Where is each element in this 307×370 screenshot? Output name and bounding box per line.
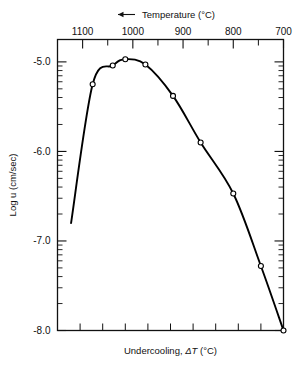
top-axis-tick-label: 900 [175,26,192,37]
left-arrow-head-icon [118,12,124,17]
top-axis-tick-label: 800 [225,26,242,37]
data-point-marker [231,191,236,196]
data-point-marker [143,62,148,67]
data-point-marker [198,140,203,145]
data-point-marker [281,328,286,333]
bottom-axis-title: Undercooling, ΔT (°C) [124,345,217,356]
y-axis-tick-label: -5.0 [33,56,51,67]
chart-figure: 11001000900800700-5.0-6.0-7.0-8.0Tempera… [0,0,307,370]
top-axis-tick-label: 1000 [122,26,145,37]
top-axis-title: Temperature (°C) [142,9,215,20]
data-point-marker [123,57,128,62]
y-axis-tick-label: -8.0 [33,325,51,336]
data-point-marker [90,82,95,87]
data-point-marker [110,63,115,68]
top-axis-tick-label: 700 [275,26,292,37]
data-curve [71,59,283,330]
data-point-marker [171,93,176,98]
data-point-marker [258,264,263,269]
chart-canvas: 11001000900800700-5.0-6.0-7.0-8.0Tempera… [0,0,307,370]
y-axis-tick-label: -6.0 [33,146,51,157]
y-axis-title: Log u (cm/sec) [7,154,18,217]
top-axis-tick-label: 1100 [72,26,94,37]
y-axis-tick-label: -7.0 [33,235,51,246]
